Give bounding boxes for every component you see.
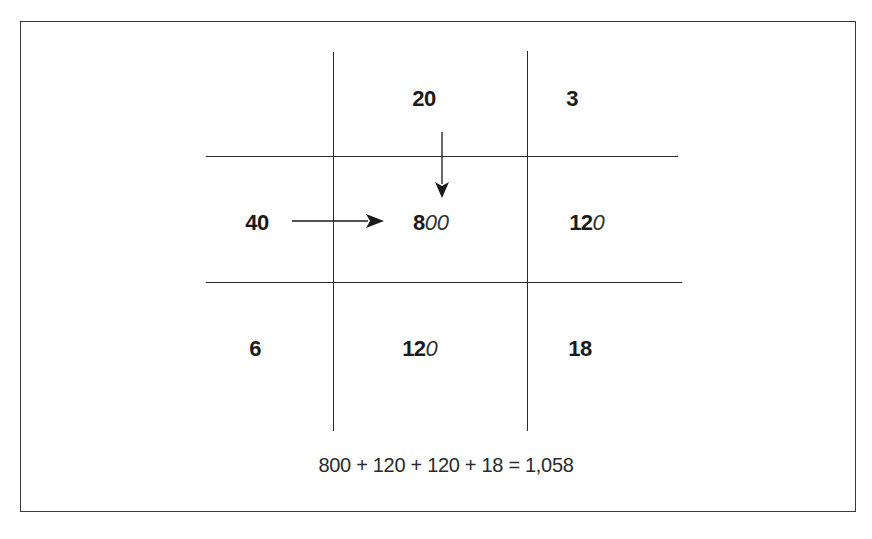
grid-vertical-line-2 (527, 51, 528, 431)
value-bold: 12 (569, 210, 592, 235)
sum-equation: 800 + 120 + 120 + 18 = 1,058 (318, 454, 573, 477)
value-bold: 18 (568, 336, 591, 361)
value-bold: 3 (566, 86, 578, 111)
value-bold: 40 (245, 210, 268, 235)
left-header-ones: 6 (249, 337, 261, 361)
grid-horizontal-line-2 (206, 282, 682, 283)
diagram-frame (20, 21, 856, 512)
top-header-ones: 3 (566, 87, 578, 111)
top-header-tens: 20 (412, 87, 435, 111)
value-bold: 12 (402, 336, 425, 361)
grid-vertical-line-1 (333, 52, 334, 431)
value-italic: 0 (593, 210, 605, 235)
cell-product-120-top: 120 (569, 211, 605, 235)
value-bold: 6 (249, 336, 261, 361)
grid-horizontal-line-1 (206, 156, 678, 157)
cell-product-18: 18 (568, 337, 591, 361)
value-bold: 20 (412, 86, 435, 111)
cell-product-120-bottom: 120 (402, 337, 438, 361)
left-header-tens: 40 (245, 211, 268, 235)
value-italic: 0 (426, 336, 438, 361)
cell-product-800: 800 (413, 211, 449, 235)
value-italic: 00 (425, 210, 449, 235)
value-bold: 8 (413, 210, 425, 235)
